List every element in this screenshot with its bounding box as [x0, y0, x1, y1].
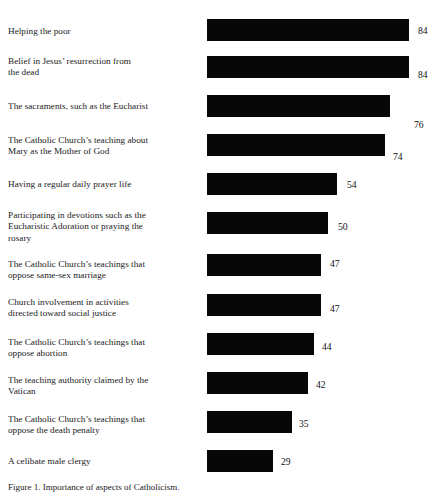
- bar: [207, 212, 328, 234]
- category-label-line: Church involvement in activities: [8, 297, 198, 308]
- bar-track: [207, 450, 273, 472]
- category-label-line: Helping the poor: [8, 26, 198, 37]
- bar-value-label: 42: [316, 380, 326, 390]
- bar-value-label: 76: [414, 120, 424, 130]
- bar: [207, 372, 308, 394]
- category-label-line: Vatican: [8, 386, 198, 397]
- bar-track: [207, 254, 321, 276]
- category-label-line: oppose abortion: [8, 348, 198, 359]
- bar-value-label: 54: [347, 180, 357, 190]
- category-label: Church involvement in activitiesdirected…: [8, 297, 198, 320]
- bar-track: [207, 333, 314, 355]
- category-label-line: Participating in devotions such as the: [8, 210, 198, 221]
- category-label: The Catholic Church’s teachings thatoppo…: [8, 337, 198, 360]
- bar-value-label: 47: [330, 304, 340, 314]
- bar-track: [207, 212, 328, 234]
- bar-value-label: 50: [338, 222, 348, 232]
- bar-value-label: 84: [418, 70, 428, 80]
- bar: [207, 254, 321, 276]
- category-label-line: The Catholic Church’s teachings that: [8, 337, 198, 348]
- category-label-line: the dead: [8, 67, 198, 78]
- category-label: Participating in devotions such as theEu…: [8, 210, 198, 244]
- bar: [207, 134, 385, 156]
- category-label-line: The Catholic Church’s teachings that: [8, 259, 198, 270]
- bar-track: [207, 372, 308, 394]
- bar-track: [207, 95, 390, 117]
- bar-track: [207, 294, 321, 316]
- category-label-line: A celibate male clergy: [8, 456, 198, 467]
- bar-chart-figure: Helping the poor84Belief in Jesus’ resur…: [0, 0, 442, 492]
- bar-value-label: 29: [281, 457, 291, 467]
- category-label: Having a regular daily prayer life: [8, 179, 198, 190]
- bar-value-label: 35: [299, 419, 309, 429]
- bar-track: [207, 19, 409, 41]
- category-label-line: Belief in Jesus’ resurrection from: [8, 56, 198, 67]
- bar: [207, 56, 409, 78]
- category-label: The Catholic Church’s teachings thatoppo…: [8, 259, 198, 282]
- bar: [207, 95, 390, 117]
- category-label-line: oppose the death penalty: [8, 425, 198, 436]
- category-label: The Catholic Church’s teachings thatoppo…: [8, 414, 198, 437]
- category-label-line: Eucharistic Adoration or praying the: [8, 221, 198, 232]
- category-label: Belief in Jesus’ resurrection fromthe de…: [8, 56, 198, 79]
- bar-track: [207, 56, 409, 78]
- category-label-line: The Catholic Church’s teachings that: [8, 414, 198, 425]
- category-label: Helping the poor: [8, 26, 198, 37]
- bar: [207, 450, 273, 472]
- category-label-line: directed toward social justice: [8, 308, 198, 319]
- bar-value-label: 84: [418, 26, 428, 36]
- category-label-line: oppose same-sex marriage: [8, 270, 198, 281]
- bar-value-label: 47: [330, 259, 340, 269]
- bar: [207, 294, 321, 316]
- category-label-line: Having a regular daily prayer life: [8, 179, 198, 190]
- category-label: The teaching authority claimed by theVat…: [8, 375, 198, 398]
- bar-track: [207, 134, 385, 156]
- bar: [207, 333, 314, 355]
- bar: [207, 173, 337, 195]
- bar-value-label: 74: [393, 152, 403, 162]
- category-label: A celibate male clergy: [8, 456, 198, 467]
- figure-caption: Figure 1. Importance of aspects of Catho…: [8, 482, 436, 492]
- category-label-line: Mary as the Mother of God: [8, 146, 198, 157]
- category-label-line: The sacraments, such as the Eucharist: [8, 101, 198, 112]
- chart-plot-area: Helping the poor84Belief in Jesus’ resur…: [0, 0, 442, 477]
- category-label-line: The Catholic Church’s teaching about: [8, 135, 198, 146]
- bar: [207, 411, 292, 433]
- bar-track: [207, 411, 292, 433]
- category-label: The Catholic Church’s teaching aboutMary…: [8, 135, 198, 158]
- bar-value-label: 44: [322, 342, 332, 352]
- bar: [207, 19, 409, 41]
- category-label-line: The teaching authority claimed by the: [8, 375, 198, 386]
- bar-track: [207, 173, 337, 195]
- category-label: The sacraments, such as the Eucharist: [8, 101, 198, 112]
- category-label-line: rosary: [8, 233, 198, 244]
